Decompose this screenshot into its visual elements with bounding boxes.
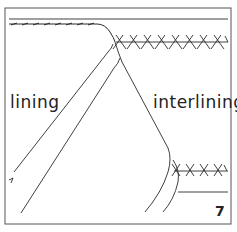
diagram-figure: lining interlining 7 [0, 0, 237, 232]
slip-stitch-line [9, 23, 115, 42]
lower-catch-stitch [172, 164, 228, 176]
interlining-label: interlining [153, 92, 237, 112]
step-number: 7 [215, 203, 225, 219]
lining-fold-band [9, 44, 120, 213]
sewing-diagram-drawing [0, 0, 237, 232]
lining-label: lining [10, 92, 60, 112]
upper-catch-stitch [113, 35, 228, 49]
interlining-edge [115, 42, 178, 212]
